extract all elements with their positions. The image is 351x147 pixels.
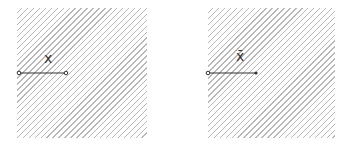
closed-endpoint-icon: [254, 71, 257, 74]
open-endpoint-icon: [206, 71, 210, 75]
segment-right: [0, 0, 351, 147]
